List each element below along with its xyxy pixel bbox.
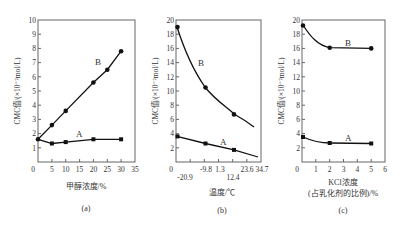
- svg-text:-20.9: -20.9: [177, 173, 193, 182]
- svg-text:35: 35: [131, 165, 139, 174]
- svg-text:12.4: 12.4: [226, 173, 239, 182]
- svg-text:0: 0: [169, 165, 173, 174]
- svg-text:2: 2: [32, 129, 36, 138]
- caption-c: (c): [339, 206, 348, 215]
- svg-text:16: 16: [167, 44, 175, 53]
- svg-text:25: 25: [104, 165, 112, 174]
- svg-text:0: 0: [31, 165, 35, 174]
- svg-text:9: 9: [32, 30, 36, 39]
- svg-text:6: 6: [296, 115, 300, 124]
- svg-text:1: 1: [314, 165, 318, 174]
- series-b-markers-b: [175, 25, 236, 117]
- svg-text:10: 10: [62, 165, 70, 174]
- svg-text:5: 5: [50, 165, 54, 174]
- svg-text:30: 30: [117, 165, 125, 174]
- svg-text:6: 6: [32, 73, 36, 82]
- panel-a: 1 2 3 4 5 6 7 8 9 10 0 5 10 15 20 25 30 …: [12, 16, 139, 213]
- svg-text:1.3: 1.3: [215, 165, 225, 174]
- panel-b: 2 4 6 8 10 12 14 16 18 20 0 -9.8 1.3 23.…: [150, 16, 269, 215]
- panel-c: 2 4 6 8 10 12 14 16 18 20 0 1 2 3 4 5 6: [276, 16, 387, 215]
- x-tick-labels-a: 0 5 10 15 20 25 30 35: [31, 165, 139, 174]
- svg-text:34.7: 34.7: [255, 165, 268, 174]
- svg-text:14: 14: [167, 58, 175, 67]
- svg-text:4: 4: [170, 129, 174, 138]
- svg-text:10: 10: [293, 87, 301, 96]
- svg-text:3: 3: [342, 165, 346, 174]
- series-b-label-a: B: [95, 57, 101, 67]
- svg-text:4: 4: [296, 129, 300, 138]
- svg-text:20: 20: [90, 165, 98, 174]
- svg-text:4: 4: [32, 101, 36, 110]
- svg-text:16: 16: [293, 44, 301, 53]
- series-a-line-c: [303, 137, 371, 144]
- series-a-label-c: A: [345, 133, 352, 143]
- svg-text:14: 14: [293, 58, 301, 67]
- svg-text:20: 20: [293, 16, 301, 25]
- svg-text:-9.8: -9.8: [200, 165, 212, 174]
- svg-text:4: 4: [355, 165, 359, 174]
- svg-text:2: 2: [328, 165, 332, 174]
- svg-text:2: 2: [170, 144, 174, 153]
- svg-text:1: 1: [32, 144, 36, 153]
- svg-text:7: 7: [32, 58, 36, 67]
- svg-text:3: 3: [32, 115, 36, 124]
- svg-text:10: 10: [167, 87, 175, 96]
- svg-text:23.6: 23.6: [240, 165, 253, 174]
- series-b-label-c: B: [345, 38, 351, 48]
- plot-frame-b: [176, 20, 261, 162]
- svg-text:6: 6: [383, 165, 387, 174]
- caption-b: (b): [217, 206, 227, 215]
- svg-text:18: 18: [167, 30, 175, 39]
- svg-text:2: 2: [296, 144, 300, 153]
- x-axis-label-b: 温度/℃: [209, 187, 235, 197]
- x-tick-labels-b: 0 -9.8 1.3 23.6 34.7 -20.9 12.4: [169, 165, 269, 182]
- series-b-line-b: [177, 27, 254, 127]
- svg-text:6: 6: [170, 115, 174, 124]
- svg-text:8: 8: [32, 44, 36, 53]
- svg-text:12: 12: [293, 73, 301, 82]
- caption-a: (a): [82, 204, 91, 213]
- y-tick-labels-c: 2 4 6 8 10 12 14 16 18 20: [293, 16, 301, 153]
- y-axis-label-c: CMC值/(×10⁻²mol/L): [276, 57, 286, 125]
- y-tick-labels-b: 2 4 6 8 10 12 14 16 18 20: [167, 16, 175, 153]
- series-b-line-c: [303, 25, 371, 48]
- series-a-markers-b: [176, 134, 237, 152]
- series-b-label-b: B: [198, 58, 204, 68]
- svg-text:0: 0: [295, 165, 299, 174]
- series-a-markers-a: [50, 137, 123, 145]
- figure: 1 2 3 4 5 6 7 8 9 10 0 5 10 15 20 25 30 …: [0, 0, 406, 228]
- x-axis-label-c-line2: (占乳化剂的比例)/%: [308, 188, 379, 198]
- svg-text:5: 5: [32, 87, 36, 96]
- y-axis-label-a: CMC值/(×10⁻²mol/L): [12, 57, 22, 125]
- series-a-line-b: [177, 136, 258, 157]
- svg-text:8: 8: [170, 101, 174, 110]
- svg-text:15: 15: [76, 165, 84, 174]
- series-a-label-a: A: [76, 129, 83, 139]
- svg-text:10: 10: [29, 16, 37, 25]
- svg-text:20: 20: [167, 16, 175, 25]
- x-axis-label-c: KCl浓度: [328, 177, 357, 187]
- x-axis-label-a: 甲醇浓度/%: [66, 181, 107, 191]
- y-axis-label-b: CMC值/(×10⁻²mol/L): [150, 57, 160, 125]
- svg-text:18: 18: [293, 30, 301, 39]
- svg-text:12: 12: [167, 73, 175, 82]
- svg-text:8: 8: [296, 101, 300, 110]
- svg-text:5: 5: [369, 165, 373, 174]
- x-tick-labels-c: 0 1 2 3 4 5 6: [295, 165, 387, 174]
- y-tick-labels-a: 1 2 3 4 5 6 7 8 9 10: [29, 16, 37, 153]
- series-a-label-b: A: [220, 137, 227, 147]
